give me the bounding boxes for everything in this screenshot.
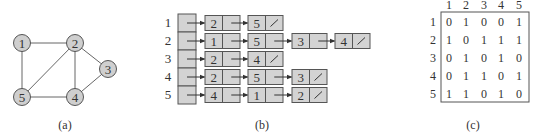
matrix-row-header: 5 [430, 87, 436, 101]
graph-node-2: 2 [67, 35, 84, 52]
node-label: 1 [19, 36, 26, 51]
node-value: 4 [211, 88, 218, 103]
list-node: 5 [248, 34, 292, 49]
list-node: 4 [248, 52, 283, 67]
graph-edge-2-5 [22, 43, 75, 97]
graph-node-3: 3 [100, 61, 117, 78]
node-value: 1 [254, 88, 261, 103]
matrix-cell: 0 [481, 51, 487, 65]
node-value: 2 [211, 70, 218, 85]
node-label: 5 [19, 90, 26, 105]
matrix-cell: 0 [498, 15, 504, 29]
matrix-cell: 1 [516, 33, 522, 47]
matrix-cell: 1 [481, 69, 487, 83]
matrix-col-header: 4 [498, 0, 504, 12]
vertex-label: 3 [165, 51, 172, 66]
node-value: 5 [254, 70, 261, 85]
graph-nodes: 12345 [14, 35, 117, 106]
matrix-cell: 0 [446, 69, 452, 83]
adjlist-row-3: 324 [165, 50, 283, 68]
matrix-col-header: 5 [516, 0, 522, 12]
diagram-canvas: 12345 (a) 1252153432442535412 (b) 123451… [0, 0, 542, 135]
matrix-cell: 1 [498, 87, 504, 101]
node-value: 2 [298, 88, 305, 103]
matrix-cell: 1 [463, 51, 469, 65]
matrix-col-header: 1 [446, 0, 452, 12]
list-node: 3 [292, 70, 327, 85]
caption-b: (b) [255, 118, 269, 132]
node-value: 4 [254, 52, 261, 67]
matrix-cell: 0 [446, 51, 452, 65]
vertex-label: 5 [165, 87, 172, 102]
node-label: 4 [72, 90, 79, 105]
matrix-cell: 1 [481, 33, 487, 47]
list-node: 5 [248, 16, 283, 31]
matrix-cell: 0 [463, 33, 469, 47]
matrix-cell: 1 [516, 69, 522, 83]
vertex-label: 1 [165, 15, 172, 30]
matrix-cell: 1 [446, 33, 452, 47]
vertex-label: 2 [165, 33, 172, 48]
list-node: 2 [205, 70, 248, 85]
matrix-cell: 0 [516, 51, 522, 65]
list-node: 4 [335, 34, 370, 49]
matrix-col-header: 3 [481, 0, 487, 12]
list-node: 2 [205, 52, 248, 67]
node-value: 1 [211, 34, 218, 49]
caption-a: (a) [58, 118, 71, 132]
matrix-cell: 1 [463, 87, 469, 101]
graph-node-5: 5 [14, 89, 31, 106]
matrix-cell: 1 [498, 51, 504, 65]
list-node: 1 [205, 34, 248, 49]
matrix-cell: 1 [463, 15, 469, 29]
matrix-cell: 0 [446, 15, 452, 29]
node-value: 3 [298, 70, 305, 85]
undirected-graph: 12345 (a) [14, 35, 117, 133]
adjacency-list: 1252153432442535412 (b) [165, 14, 370, 132]
matrix-body: 12345123450100110111010100110111010 [430, 0, 522, 101]
adjlist-row-5: 5412 [165, 86, 327, 104]
matrix-row-header: 4 [430, 69, 436, 83]
matrix-cell: 1 [446, 87, 452, 101]
matrix-cell: 1 [516, 15, 522, 29]
graph-node-1: 1 [14, 35, 31, 52]
node-value: 3 [298, 34, 305, 49]
list-node: 1 [248, 88, 292, 103]
matrix-row-header: 2 [430, 33, 436, 47]
node-value: 4 [341, 34, 348, 49]
node-label: 2 [72, 36, 79, 51]
matrix-cell: 0 [481, 87, 487, 101]
node-value: 5 [254, 34, 261, 49]
adjacency-list-body: 1252153432442535412 [165, 14, 370, 104]
matrix-row-header: 3 [430, 51, 436, 65]
node-value: 2 [211, 52, 218, 67]
list-node: 5 [248, 70, 292, 85]
adjacency-matrix: 12345123450100110111010100110111010 (c) [430, 0, 529, 132]
matrix-cell: 0 [516, 87, 522, 101]
adjlist-row-1: 125 [165, 14, 283, 32]
caption-c: (c) [466, 118, 479, 132]
adjlist-row-2: 21534 [165, 32, 370, 50]
list-node: 3 [292, 34, 335, 49]
matrix-col-header: 2 [463, 0, 469, 12]
adjlist-row-4: 4253 [165, 68, 327, 86]
list-node: 2 [292, 88, 327, 103]
list-node: 4 [205, 88, 248, 103]
matrix-cell: 1 [463, 69, 469, 83]
node-label: 3 [105, 62, 112, 77]
matrix-cell: 0 [498, 69, 504, 83]
list-node: 2 [205, 16, 248, 31]
matrix-cell: 1 [498, 33, 504, 47]
matrix-cell: 0 [481, 15, 487, 29]
node-value: 5 [254, 16, 261, 31]
matrix-row-header: 1 [430, 15, 436, 29]
graph-edges [22, 43, 108, 97]
graph-node-4: 4 [67, 89, 84, 106]
node-value: 2 [211, 16, 218, 31]
vertex-label: 4 [165, 69, 172, 84]
